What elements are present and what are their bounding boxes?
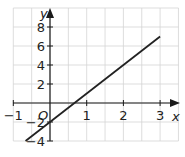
y-tick-label: 4 (37, 58, 45, 73)
x-axis-label: x (171, 109, 180, 124)
x-tick-label: 3 (156, 108, 164, 123)
y-tick-label: 2 (37, 77, 45, 92)
line-graph: −11238642−2−4 y x O (0, 0, 185, 157)
y-tick-label: −4 (26, 134, 45, 149)
tick-labels: −11238642−2−4 (4, 20, 165, 149)
origin-label: O (38, 108, 48, 123)
x-tick-label: 2 (119, 108, 127, 123)
x-axis (13, 99, 180, 107)
x-tick-label: 1 (83, 108, 91, 123)
series-line (26, 37, 161, 142)
y-axis-label: y (39, 6, 48, 21)
y-tick-label: 8 (37, 20, 45, 35)
data-line (26, 37, 161, 142)
y-tick-label: 6 (37, 39, 45, 54)
x-tick-label: −1 (4, 108, 23, 123)
